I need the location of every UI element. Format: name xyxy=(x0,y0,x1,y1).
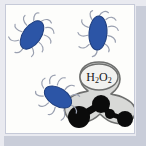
bacterium-top-right xyxy=(76,10,119,59)
cell-body-top-left xyxy=(15,17,48,54)
illustration-artwork xyxy=(0,0,146,146)
atom-hydrogen-mid xyxy=(105,109,115,119)
figure-container: H2O2 xyxy=(0,0,146,146)
bacterium-top-left xyxy=(2,6,61,67)
cell-body-top-right xyxy=(88,15,108,50)
speech-bubble-oval xyxy=(80,64,118,90)
atom-oxygen-right xyxy=(117,111,133,127)
atom-oxygen-left xyxy=(68,106,90,128)
